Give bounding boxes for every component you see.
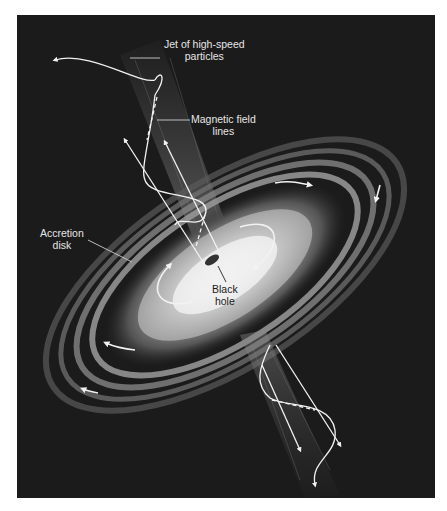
magnetic-label-line2: lines [191, 125, 256, 137]
disk-label-line1: Accretion [40, 227, 84, 239]
black-hole-label-line1: Black [212, 283, 238, 295]
magnetic-field-label: Magnetic field lines [191, 113, 256, 137]
accretion-disk-label: Accretion disk [40, 227, 84, 251]
black-hole-illustration [17, 15, 435, 498]
black-hole-label-line2: hole [212, 295, 238, 307]
diagram-panel: Jet of high-speed particles Magnetic fie… [17, 15, 435, 498]
magnetic-label-line1: Magnetic field [191, 113, 256, 125]
accretion-disk [17, 86, 435, 464]
disk-label-line2: disk [40, 239, 84, 251]
jet-label: Jet of high-speed particles [164, 38, 245, 62]
jet-label-line1: Jet of high-speed [164, 38, 245, 50]
jet-label-line2: particles [164, 50, 245, 62]
black-hole-label: Black hole [212, 283, 238, 307]
